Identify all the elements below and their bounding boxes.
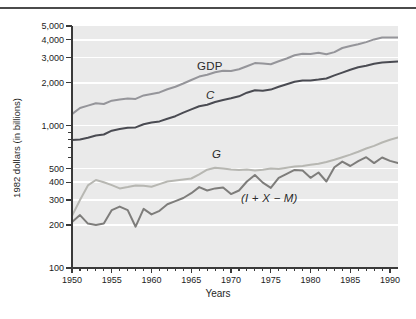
y-tick-label-100: 100 xyxy=(49,263,64,273)
y-tick-label-2000: 2,000 xyxy=(41,78,64,88)
x-tick-label-1965: 1965 xyxy=(181,275,201,285)
y-axis-title: 1982 dollars (in billions) xyxy=(11,98,22,198)
x-tick-label-1975: 1975 xyxy=(261,275,281,285)
plot-area xyxy=(72,26,398,268)
y-tick-label-4000: 4,000 xyxy=(41,35,64,45)
x-axis-title: Years xyxy=(205,288,230,299)
series-label-gdp: GDP xyxy=(197,60,223,72)
x-tick-label-1980: 1980 xyxy=(301,275,321,285)
y-tick-label-300: 300 xyxy=(49,195,64,205)
y-tick-label-3000: 3,000 xyxy=(41,53,64,63)
x-tick-label-1970: 1970 xyxy=(221,275,241,285)
x-tick-label-1990: 1990 xyxy=(380,275,400,285)
x-tick-label-1955: 1955 xyxy=(102,275,122,285)
series-label-investment-net-exports: (I + X − M) xyxy=(241,192,298,204)
x-tick-label-1950: 1950 xyxy=(62,275,82,285)
y-tick-label-500: 500 xyxy=(49,164,64,174)
y-tick-label-1000: 1,000 xyxy=(41,121,64,131)
series-label-government: G xyxy=(212,148,221,160)
y-tick-label-200: 200 xyxy=(49,220,64,230)
gdp-components-chart: 1002003004005001,0002,0003,0004,0005,000… xyxy=(0,0,416,319)
figure-page: 1002003004005001,0002,0003,0004,0005,000… xyxy=(0,0,416,319)
series-label-consumption: C xyxy=(206,89,215,101)
y-tick-label-400: 400 xyxy=(49,177,64,187)
x-tick-label-1985: 1985 xyxy=(340,275,360,285)
x-tick-label-1960: 1960 xyxy=(141,275,161,285)
chart-canvas: 1002003004005001,0002,0003,0004,0005,000… xyxy=(0,0,416,319)
y-tick-label-5000: 5,000 xyxy=(41,21,64,31)
